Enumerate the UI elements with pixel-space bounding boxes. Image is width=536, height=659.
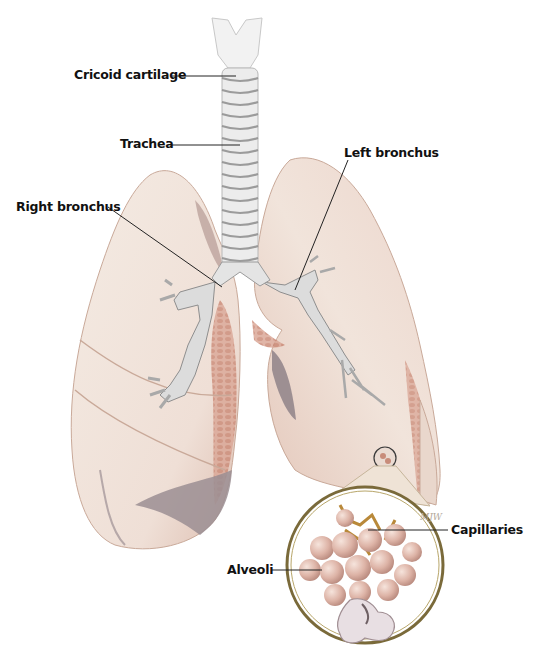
artist-signature: MJW — [419, 512, 443, 522]
label-trachea: Trachea — [120, 136, 174, 151]
left-lung — [252, 158, 440, 505]
lung-anatomy-illustration: MJW — [0, 0, 536, 659]
right-lung — [71, 171, 240, 549]
label-left-bronchus: Left bronchus — [344, 145, 439, 160]
label-cricoid-cartilage: Cricoid cartilage — [74, 67, 186, 82]
label-capillaries: Capillaries — [451, 522, 523, 537]
label-right-bronchus: Right bronchus — [16, 199, 121, 214]
label-alveoli: Alveoli — [227, 562, 273, 577]
